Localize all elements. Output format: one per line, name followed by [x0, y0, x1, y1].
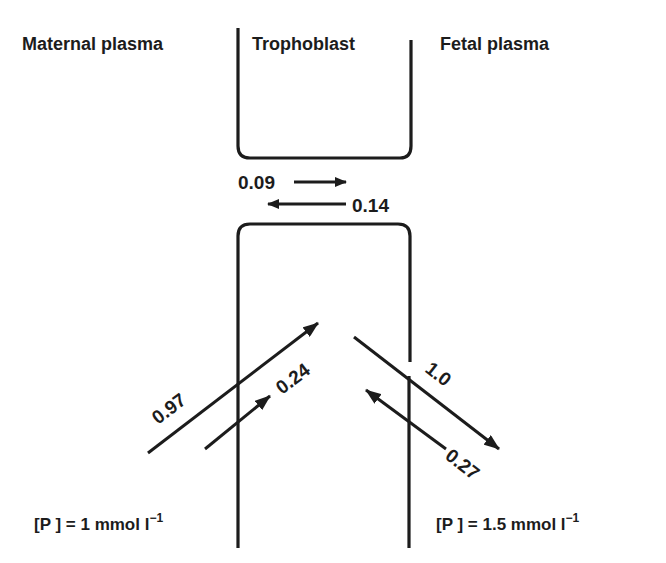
- maternal-plasma-label: Maternal plasma: [22, 34, 164, 54]
- lower-trophoblast-cell-left-membrane: [238, 224, 410, 548]
- flux-paracellular-f-to-m: 0.14: [352, 195, 389, 216]
- diagram-canvas: Maternal plasma Trophoblast Fetal plasma…: [0, 0, 666, 563]
- flux-paracellular-m-to-f: 0.09: [238, 172, 275, 193]
- flux-maternal-efflux: 0.24: [272, 359, 315, 398]
- flux-fetal-efflux: 1.0: [422, 358, 456, 391]
- placental-transport-diagram: Maternal plasma Trophoblast Fetal plasma…: [0, 0, 666, 563]
- fetal-plasma-label: Fetal plasma: [440, 34, 550, 54]
- fetal-concentration: [P ] = 1.5 mmol l−1: [436, 511, 580, 534]
- fetal-efflux-arrow: [354, 337, 499, 449]
- flux-fetal-influx: 0.27: [442, 445, 484, 484]
- maternal-concentration: [P ] = 1 mmol l−1: [34, 511, 163, 534]
- trophoblast-label: Trophoblast: [252, 34, 355, 54]
- flux-maternal-influx: 0.97: [148, 389, 190, 428]
